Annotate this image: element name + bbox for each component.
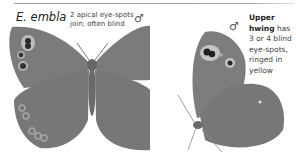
butterfly-upperside xyxy=(9,26,150,150)
annotation-hindwing-eyespots: Upper hwing has 3 or 4 blind eye-spots, … xyxy=(249,13,296,76)
